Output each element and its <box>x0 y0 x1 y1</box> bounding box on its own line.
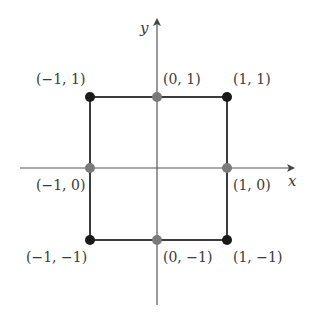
point-1-neg1 <box>222 235 232 245</box>
label-1-neg1: (1, −1) <box>233 249 282 265</box>
diagram-canvas: y x (−1, 1) (0, 1) (1, 1) (−1, 0) (1, 0)… <box>0 0 312 314</box>
point-1-1 <box>222 92 232 102</box>
point-1-0 <box>222 163 232 173</box>
x-axis-label: x <box>288 172 297 190</box>
point-neg1-1 <box>85 92 95 102</box>
point-neg1-neg1 <box>85 235 95 245</box>
y-axis-label: y <box>139 19 149 37</box>
label-1-1: (1, 1) <box>233 71 271 87</box>
label-0-neg1: (0, −1) <box>163 249 212 265</box>
label-1-0: (1, 0) <box>233 177 271 193</box>
point-0-neg1 <box>152 235 162 245</box>
label-neg1-0: (−1, 0) <box>36 177 85 193</box>
label-0-1: (0, 1) <box>163 71 201 87</box>
point-neg1-0 <box>85 163 95 173</box>
label-neg1-1: (−1, 1) <box>36 71 85 87</box>
coordinate-diagram: y x (−1, 1) (0, 1) (1, 1) (−1, 0) (1, 0)… <box>0 0 312 314</box>
label-neg1-neg1: (−1, −1) <box>26 249 87 265</box>
point-0-1 <box>152 92 162 102</box>
